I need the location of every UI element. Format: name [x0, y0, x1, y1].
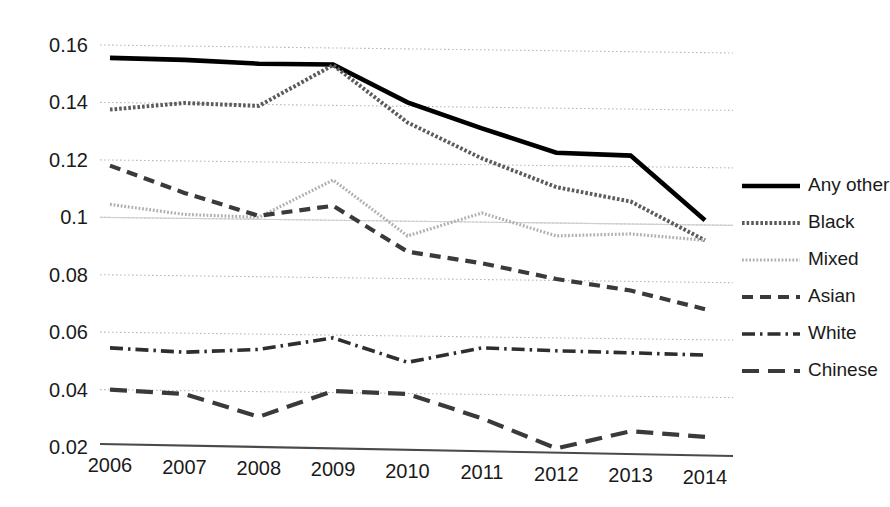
- legend-item-any-other[interactable]: Any other: [742, 174, 890, 195]
- legend-label: Any other: [808, 174, 890, 195]
- legend-label: Black: [808, 211, 855, 232]
- legend-label: White: [808, 322, 857, 343]
- y-tick-label: 0.04: [49, 379, 88, 401]
- line-chart: 0.020.040.060.080.10.120.140.16 20062007…: [0, 0, 890, 507]
- series-line-black: [110, 65, 705, 240]
- chart-canvas: 0.020.040.060.080.10.120.140.16 20062007…: [0, 0, 890, 507]
- y-tick-label: 0.1: [60, 206, 88, 228]
- legend-item-black[interactable]: Black: [742, 211, 855, 232]
- gridline-0.1-solid: [100, 217, 733, 225]
- y-tick-label: 0.16: [49, 34, 88, 56]
- legend-label: Chinese: [808, 359, 878, 380]
- legend-item-chinese[interactable]: Chinese: [742, 359, 878, 380]
- x-tick-label-2012: 2012: [534, 463, 579, 485]
- y-tick-label: 0.06: [49, 321, 88, 343]
- legend-item-asian[interactable]: Asian: [742, 285, 856, 306]
- gridline-0.06: [100, 332, 733, 340]
- x-tick-label-2009: 2009: [311, 458, 356, 480]
- series-line-white: [110, 338, 705, 362]
- x-tick-label-2013: 2013: [608, 464, 653, 486]
- legend: Any otherBlackMixedAsianWhiteChinese: [742, 174, 890, 380]
- gridline-0.16: [100, 45, 733, 53]
- x-tick-label-2007: 2007: [162, 456, 207, 478]
- series-line-chinese: [110, 390, 705, 449]
- y-tick-label: 0.12: [49, 149, 88, 171]
- axis-baseline: [100, 444, 733, 456]
- legend-item-white[interactable]: White: [742, 322, 857, 343]
- x-tick-label-2006: 2006: [88, 454, 133, 476]
- x-tick-label-2008: 2008: [237, 457, 282, 479]
- x-axis-line: [100, 444, 733, 456]
- y-axis-tick-labels: 0.020.040.060.080.10.120.140.16: [49, 34, 88, 458]
- y-tick-label: 0.02: [49, 436, 88, 458]
- y-tick-label: 0.14: [49, 91, 88, 113]
- legend-item-mixed[interactable]: Mixed: [742, 248, 859, 269]
- y-tick-label: 0.08: [49, 264, 88, 286]
- legend-label: Mixed: [808, 248, 859, 269]
- series-lines: [110, 58, 705, 449]
- legend-label: Asian: [808, 285, 856, 306]
- series-line-mixed: [110, 180, 705, 240]
- x-tick-label-2014: 2014: [683, 466, 728, 488]
- gridlines: [100, 45, 733, 398]
- x-axis-tick-labels: 200620072008200920102011201220132014: [88, 454, 728, 487]
- gridline-0.08: [100, 275, 733, 283]
- x-tick-label-2011: 2011: [460, 461, 503, 483]
- x-tick-label-2010: 2010: [385, 460, 430, 482]
